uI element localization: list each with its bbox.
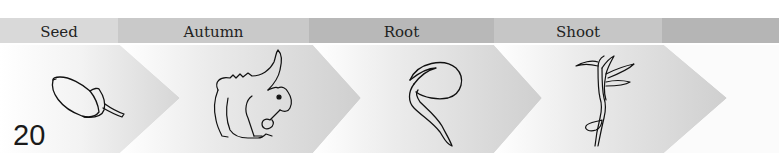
stage-label-end: [662, 18, 779, 43]
label-text: Autumn: [183, 23, 243, 41]
stage-label-autumn: Autumn: [118, 18, 309, 43]
label-text: Shoot: [556, 23, 600, 41]
stage-label-seed: Seed: [0, 18, 118, 43]
stage-label-shoot: Shoot: [494, 18, 662, 43]
label-text: Seed: [40, 23, 78, 41]
stage-label-root: Root: [309, 18, 494, 43]
label-text: Root: [384, 23, 419, 41]
page-number: 20: [13, 119, 45, 152]
